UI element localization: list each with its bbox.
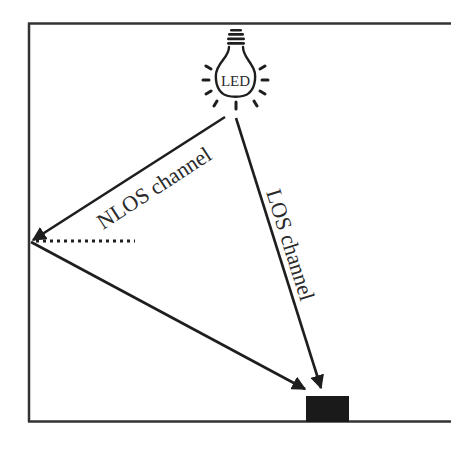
nlos-incident-arrow	[33, 117, 225, 240]
bulb-globe	[216, 47, 255, 97]
bulb-base	[227, 29, 245, 45]
los-channel-label: LOS channel	[261, 186, 320, 304]
vlc-diagram: LED NLOS channel LOS channel	[0, 0, 475, 449]
nlos-channel-label: NLOS channel	[92, 142, 216, 235]
nlos-reflected-arrow	[31, 242, 305, 389]
los-arrow	[236, 118, 321, 388]
receiver-photodetector	[306, 396, 349, 422]
led-bulb-icon: LED	[203, 29, 268, 109]
led-label: LED	[221, 73, 250, 89]
